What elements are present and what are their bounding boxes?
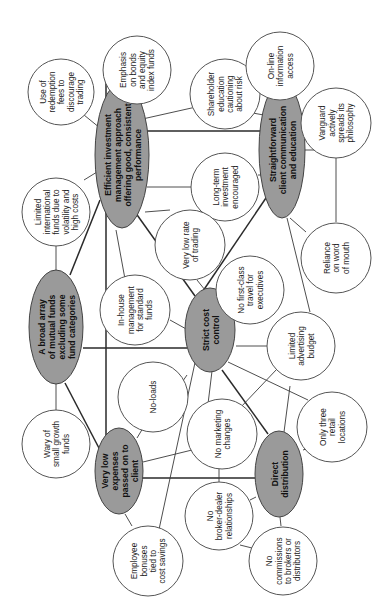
leaf-label: No-loads bbox=[149, 381, 158, 414]
leaf-long-term-investment: Long-terminvestmentencouraged bbox=[191, 153, 259, 221]
leaf-in-house-management: In-housemanagementfor standardfunds bbox=[100, 275, 170, 345]
hub-very-low-expenses: Very lowexpensespassed on toclient bbox=[95, 428, 143, 514]
hub-direct-distribution: Directdistribution bbox=[255, 431, 303, 517]
leaf-low-trading-rate: Very low rateof trading bbox=[155, 210, 225, 280]
leaf-limited-international: Limitedinternationalfunds due tovolatili… bbox=[22, 178, 90, 246]
leaf-no-loads: No-loads bbox=[118, 362, 188, 432]
hub-straightforward-communication: Straightforwardclient communicationand e… bbox=[259, 82, 305, 218]
leaf-label: Shareholdereducationcautioningabout risk bbox=[207, 71, 244, 116]
leaf-redemption-fees: Use ofredemptionfees todiscouragetrading bbox=[28, 59, 94, 125]
leaf-label: Relianceon wordof mouth bbox=[323, 242, 351, 274]
leaf-label: Vanguardactivelyspreads itsphilosophy bbox=[318, 103, 355, 143]
hub-broad-array: A broad arrayof mutual fundsexcluding so… bbox=[29, 270, 83, 384]
leaf-online-access: On-lineinformationaccess bbox=[246, 32, 314, 100]
leaf-no-commissions: Nocommissionsto brokers ordistributors bbox=[249, 527, 317, 595]
leaf-no-marketing-changes: No marketingchanges bbox=[187, 399, 257, 469]
leaf-label: Very low rateof trading bbox=[182, 221, 200, 269]
leaf-label: Long-terminvestmentencouraged bbox=[212, 165, 240, 209]
leaf-wary-small-growth: Wary ofsmall growthfunds bbox=[22, 410, 90, 478]
leaf-no-broker-dealer: Nobroker-dealerrelationships bbox=[185, 482, 253, 550]
leaf-vanguard-philosophy: Vanguardactivelyspreads itsphilosophy bbox=[301, 88, 371, 158]
leaf-limited-advertising: Limitedadvertisingbudget bbox=[267, 312, 335, 380]
leaf-label: Emphasison bondsand equityindex funds bbox=[119, 49, 156, 91]
activity-system-diagram: Efficient investmentmanagement approacho… bbox=[0, 0, 389, 615]
leaf-no-first-class: No first-classtravel forexecutives bbox=[216, 256, 284, 324]
leaf-word-of-mouth: Relianceon wordof mouth bbox=[301, 223, 371, 293]
leaf-employee-bonuses: Employeebonusestied tocost savings bbox=[113, 526, 183, 596]
leaf-emphasis-bonds: Emphasison bondsand equityindex funds bbox=[103, 36, 171, 104]
hub-label: A broad arrayof mutual fundsexcluding so… bbox=[37, 294, 77, 359]
leaf-three-retail-locations: Only threeretaillocations bbox=[297, 392, 367, 462]
